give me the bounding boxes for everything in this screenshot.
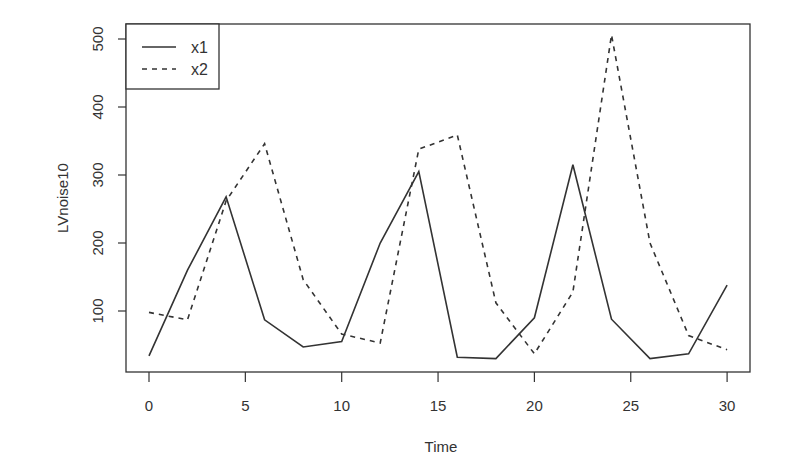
x-tick-label: 30 (719, 397, 736, 414)
x-tick-label: 25 (622, 397, 639, 414)
x-tick-label: 20 (526, 397, 543, 414)
x-axis-label: Time (425, 438, 458, 455)
x-axis: 051015202530 (145, 372, 736, 414)
y-tick-label: 500 (89, 26, 106, 51)
series-lines (149, 35, 727, 359)
y-tick-label: 200 (89, 230, 106, 255)
x-tick-label: 15 (430, 397, 447, 414)
x-tick-label: 0 (145, 397, 153, 414)
legend-label-x1: x1 (191, 39, 208, 56)
y-tick-label: 100 (89, 298, 106, 323)
legend-box (126, 24, 219, 89)
y-axis-label: LVnoise10 (54, 163, 71, 233)
x-tick-label: 5 (241, 397, 249, 414)
legend-label-x2: x2 (191, 61, 208, 78)
y-tick-label: 400 (89, 94, 106, 119)
y-tick-label: 300 (89, 162, 106, 187)
series-line-x1 (149, 165, 727, 359)
line-chart: 100200300400500 051015202530 Time LVnois… (0, 0, 788, 473)
y-axis: 100200300400500 (89, 26, 126, 323)
series-line-x2 (149, 35, 727, 354)
legend: x1 x2 (126, 24, 219, 89)
x-tick-label: 10 (333, 397, 350, 414)
